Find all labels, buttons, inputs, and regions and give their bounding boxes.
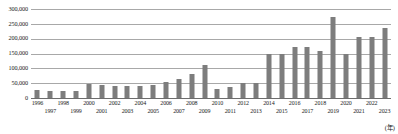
bar[interactable] xyxy=(305,47,310,98)
bar[interactable] xyxy=(35,90,40,98)
bar[interactable] xyxy=(61,91,66,98)
y-axis: 300,000250,000200,000150,000100,00050,00… xyxy=(0,0,30,134)
x-axis: 1996199719981999200020012002200320042005… xyxy=(31,99,391,121)
bar-slot xyxy=(44,9,57,98)
bar[interactable] xyxy=(279,54,284,98)
bar-slot xyxy=(108,9,121,98)
bar[interactable] xyxy=(202,65,207,98)
bar-slot xyxy=(301,9,314,98)
x-tick-label: 2007 xyxy=(173,108,184,114)
bar[interactable] xyxy=(48,91,53,98)
bar-slot xyxy=(262,9,275,98)
bar-slot xyxy=(198,9,211,98)
x-tick-label: 2019 xyxy=(327,108,338,114)
bar[interactable] xyxy=(73,91,78,98)
bar[interactable] xyxy=(241,83,246,98)
bar-slot xyxy=(314,9,327,98)
bar-slot xyxy=(82,9,95,98)
bar[interactable] xyxy=(176,79,181,98)
x-tick-label: 1996 xyxy=(32,100,43,106)
x-tick-label: 2010 xyxy=(212,100,223,106)
bar-slot xyxy=(211,9,224,98)
bar-slot xyxy=(224,9,237,98)
bar[interactable] xyxy=(189,74,194,98)
x-tick-label: 2020 xyxy=(340,100,351,106)
bar-slot xyxy=(95,9,108,98)
bar-chart: 300,000250,000200,000150,000100,00050,00… xyxy=(0,0,398,134)
plot-area xyxy=(31,9,391,98)
bar-slot xyxy=(365,9,378,98)
x-axis-unit-label: (年) xyxy=(385,125,395,131)
x-tick-label: 2009 xyxy=(199,108,210,114)
bar[interactable] xyxy=(228,87,233,98)
bar-slot xyxy=(237,9,250,98)
x-tick-label: 2005 xyxy=(147,108,158,114)
x-tick-label: 2000 xyxy=(83,100,94,106)
x-tick-label: 2016 xyxy=(289,100,300,106)
y-tick-label: 300,000 xyxy=(9,6,28,12)
y-tick-label: 200,000 xyxy=(9,35,28,41)
bar[interactable] xyxy=(356,37,361,98)
x-tick-label: 1998 xyxy=(57,100,68,106)
bar-slot xyxy=(288,9,301,98)
bars-group xyxy=(31,9,391,98)
bar[interactable] xyxy=(215,89,220,98)
bar-slot xyxy=(172,9,185,98)
bar[interactable] xyxy=(138,86,143,98)
y-tick-label: 50,000 xyxy=(12,80,28,86)
bar-slot xyxy=(378,9,391,98)
bar-slot xyxy=(327,9,340,98)
x-tick-label: 1997 xyxy=(45,108,56,114)
bar[interactable] xyxy=(112,86,117,98)
x-tick-label: 2012 xyxy=(237,100,248,106)
x-tick-label: 2018 xyxy=(315,100,326,106)
x-tick-label: 2004 xyxy=(135,100,146,106)
x-tick-label: 2001 xyxy=(96,108,107,114)
bar-slot xyxy=(57,9,70,98)
y-tick-label: 250,000 xyxy=(9,21,28,27)
x-tick-label: 2013 xyxy=(250,108,261,114)
bar[interactable] xyxy=(382,28,387,98)
x-tick-label: 2017 xyxy=(302,108,313,114)
bar[interactable] xyxy=(151,85,156,98)
bar-slot xyxy=(160,9,173,98)
bar[interactable] xyxy=(266,54,271,98)
bar-slot xyxy=(352,9,365,98)
bar-slot xyxy=(185,9,198,98)
y-tick-label: 100,000 xyxy=(9,65,28,71)
x-tick-label: 2023 xyxy=(379,108,390,114)
x-tick-label: 2021 xyxy=(353,108,364,114)
bar[interactable] xyxy=(253,83,258,98)
bar-slot xyxy=(275,9,288,98)
x-tick-label: 2003 xyxy=(122,108,133,114)
x-tick-label: 2011 xyxy=(225,108,236,114)
bar-slot xyxy=(121,9,134,98)
y-tick-label: 150,000 xyxy=(9,50,28,56)
bar[interactable] xyxy=(343,54,348,99)
bar[interactable] xyxy=(331,17,336,98)
bar-slot xyxy=(31,9,44,98)
bar[interactable] xyxy=(86,84,91,98)
bar-slot xyxy=(134,9,147,98)
x-tick-label: 2002 xyxy=(109,100,120,106)
x-tick-label: 2006 xyxy=(160,100,171,106)
y-tick-label: 0 xyxy=(25,95,28,101)
x-tick-label: 1999 xyxy=(70,108,81,114)
bar-slot xyxy=(70,9,83,98)
bar[interactable] xyxy=(292,47,297,98)
bar[interactable] xyxy=(163,82,168,98)
x-tick-label: 2014 xyxy=(263,100,274,106)
x-tick-label: 2022 xyxy=(366,100,377,106)
bar[interactable] xyxy=(369,37,374,98)
bar[interactable] xyxy=(99,85,104,98)
bar-slot xyxy=(340,9,353,98)
bar-slot xyxy=(250,9,263,98)
bar[interactable] xyxy=(318,51,323,98)
x-tick-label: 2008 xyxy=(186,100,197,106)
bar-slot xyxy=(147,9,160,98)
bar[interactable] xyxy=(125,86,130,98)
x-tick-label: 2015 xyxy=(276,108,287,114)
